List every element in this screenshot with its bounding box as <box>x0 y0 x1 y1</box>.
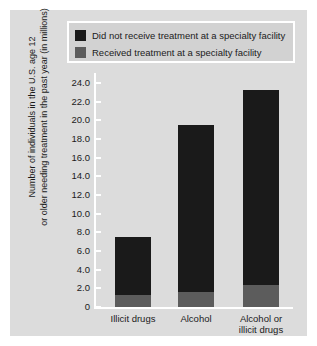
y-axis-tick <box>95 157 101 159</box>
bar-segment-did-not-receive <box>115 237 151 295</box>
bar-segment-received <box>243 285 279 307</box>
y-axis-tick <box>95 269 101 271</box>
y-axis-title: Number of individuals in the U.S. age 12… <box>23 0 53 242</box>
y-axis-tick-label: 2.0 <box>56 283 90 293</box>
y-axis-tick-label: 4.0 <box>56 265 90 275</box>
y-axis-tick-label: 22.0 <box>56 97 90 107</box>
x-axis-category-label: Alcohol orillicit drugs <box>218 313 304 335</box>
y-axis-tick <box>95 82 101 84</box>
chart-figure: Did not receive treatment at a specialty… <box>10 10 307 336</box>
chart-legend: Did not receive treatment at a specialty… <box>67 21 295 63</box>
bar-1 <box>115 237 151 307</box>
y-axis-tick <box>95 250 101 252</box>
bar-segment-received <box>115 295 151 307</box>
y-axis-tick <box>95 194 101 196</box>
legend-label-did-not-receive: Did not receive treatment at a specialty… <box>92 30 285 41</box>
y-axis-tick <box>95 231 101 233</box>
y-axis-tick <box>95 287 101 289</box>
y-axis-tick-label: 16.0 <box>56 153 90 163</box>
y-axis-tick <box>95 213 101 215</box>
y-axis-tick <box>95 175 101 177</box>
legend-item-received: Received treatment at a specialty facili… <box>75 44 287 60</box>
y-axis-tick-label: 10.0 <box>56 209 90 219</box>
y-axis-tick-label: 6.0 <box>56 246 90 256</box>
y-axis-title-line1: Number of individuals in the U.S. age 12 <box>26 36 38 197</box>
y-axis-tick-label: 18.0 <box>56 134 90 144</box>
bar-segment-received <box>178 292 214 307</box>
bar-segment-did-not-receive <box>243 90 279 284</box>
y-axis-tick-label: 20.0 <box>56 115 90 125</box>
y-axis-line <box>94 73 96 309</box>
x-axis-line <box>94 307 293 309</box>
y-axis-tick <box>95 306 101 308</box>
y-axis-tick <box>95 138 101 140</box>
y-axis-tick <box>95 101 101 103</box>
legend-item-did-not-receive: Did not receive treatment at a specialty… <box>75 27 287 43</box>
y-axis-tick-label: 12.0 <box>56 190 90 200</box>
bar-3 <box>243 90 279 307</box>
y-axis-tick-label: 24.0 <box>56 78 90 88</box>
y-axis-tick <box>95 119 101 121</box>
category-label-line1: Alcohol or <box>218 313 304 324</box>
category-label-line2: illicit drugs <box>218 324 304 335</box>
y-axis-tick-label: 0 <box>56 302 90 312</box>
bar-2 <box>178 125 214 307</box>
y-axis-tick-labels: 24.022.020.018.016.014.012.010.08.06.04.… <box>54 10 90 336</box>
y-axis-title-line2: or older needing treatment in the past y… <box>38 8 50 226</box>
y-axis-tick-label: 14.0 <box>56 171 90 181</box>
y-axis-tick-label: 8.0 <box>56 227 90 237</box>
legend-label-received: Received treatment at a specialty facili… <box>92 47 262 58</box>
bar-segment-did-not-receive <box>178 125 214 292</box>
